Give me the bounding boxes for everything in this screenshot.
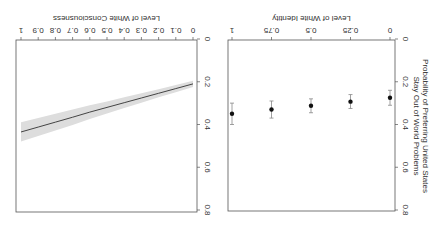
data-point [230,112,234,116]
x-tick-label: 0.8 [49,26,61,35]
x-tick-label: 0.6 [84,26,96,35]
x-tick-label: 0.75 [263,26,279,35]
y-tick-label: 0.8 [401,204,410,216]
panel-white-identity: 00.250.50.751Level of White Identity00.2… [228,14,410,216]
data-point [309,103,313,107]
x-tick-label: 0.25 [342,26,358,35]
x-tick-label: 0.9 [32,26,44,35]
x-tick-label: 0.5 [305,26,317,35]
x-tick-label: 0.3 [135,26,147,35]
x-tick-label: 0.1 [170,26,182,35]
figure: 00.250.50.751Level of White Identity00.2… [0,0,437,226]
x-tick-label: 0.5 [101,26,113,35]
plot-frame [228,40,395,211]
x-tick-label: 0 [190,26,195,35]
y-tick-label: 0.6 [203,162,212,174]
y-tick-label: 0.4 [401,119,410,131]
x-axis-title: Level of White Consciousness [53,14,160,23]
y-tick-label: 0.6 [401,162,410,174]
x-tick-label: 0.7 [66,26,78,35]
y-tick-label: 0.2 [401,76,410,88]
x-tick-label: 0 [387,26,392,35]
y-tick-label: 0.2 [203,76,212,88]
x-axis-title: Level of White Identity [272,14,351,23]
chart-canvas: 00.250.50.751Level of White Identity00.2… [0,0,437,226]
y-tick-label: 0 [401,37,410,42]
y-tick-label: 0.4 [203,119,212,131]
panel-white-consciousness: 00.10.20.30.40.50.60.70.80.91Level of Wh… [16,14,212,216]
x-tick-label: 0.4 [118,26,130,35]
y-tick-label: 0 [203,37,212,42]
data-point [388,96,392,100]
x-tick-label: 0.2 [152,26,164,35]
data-point [269,107,273,111]
x-tick-label: 1 [18,26,23,35]
y-axis-title-line2: Stay Out of World Problems [412,77,421,176]
data-point [348,99,352,103]
x-tick-label: 1 [229,26,234,35]
y-axis-title-line1: Probability of Preferring United States [421,59,430,193]
confidence-band [21,81,193,142]
y-tick-label: 0.8 [203,204,212,216]
